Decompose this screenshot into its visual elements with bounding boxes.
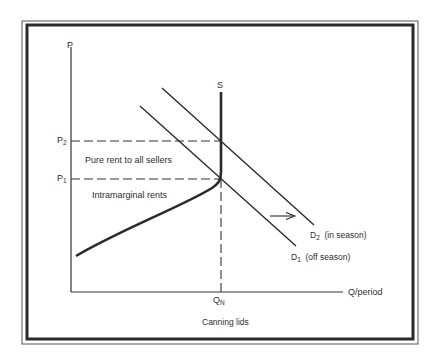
supply-label: S <box>217 81 223 90</box>
y-axis-label: P <box>67 41 73 50</box>
p2-label-sub: 2 <box>63 139 67 146</box>
qn-label-main: Q <box>213 295 220 305</box>
d1-label-sub: 1 <box>297 256 301 263</box>
caption: Canning lids <box>202 318 249 327</box>
qn-label-sub: N <box>220 299 225 306</box>
d2-label: D2 (in season) <box>310 231 367 242</box>
d2-label-note: (in season) <box>325 230 367 240</box>
demand-curve-d1 <box>140 106 296 246</box>
d1-label: D1 (off season) <box>291 253 350 264</box>
p1-label-sub: 1 <box>63 177 67 184</box>
x-axis-label: Q/period <box>348 288 383 297</box>
supply-demand-diagram: P P2 P1 S Pure rent to all sellers Intra… <box>0 0 439 359</box>
p2-label: P2 <box>57 136 67 147</box>
demand-curve-d2 <box>162 88 314 225</box>
supply-curve <box>76 92 221 256</box>
d2-label-sub: 2 <box>316 234 320 241</box>
pure-rent-label: Pure rent to all sellers <box>85 156 172 165</box>
p1-label: P1 <box>57 174 67 185</box>
qn-label: QN <box>213 296 225 307</box>
intramarginal-rents-label: Intramarginal rents <box>92 191 167 200</box>
shift-arrow-icon <box>270 213 295 220</box>
d1-label-note: (off season) <box>306 252 351 262</box>
